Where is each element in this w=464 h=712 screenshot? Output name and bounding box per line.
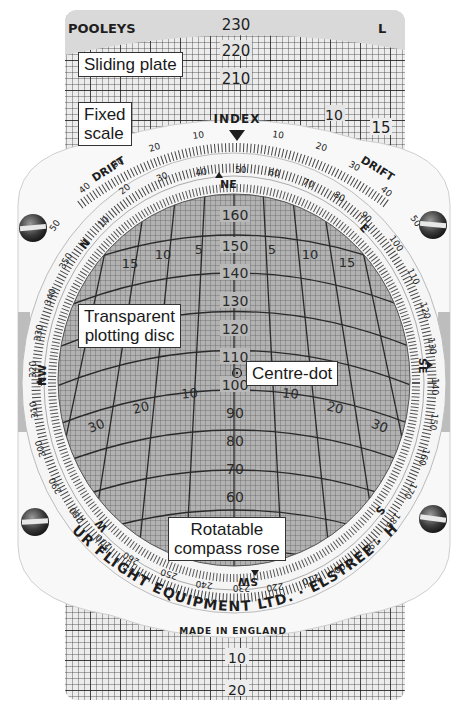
screw-icon [419,505,447,533]
svg-text:10: 10 [325,107,343,123]
callout-text: plotting disc [84,326,175,345]
svg-text:150: 150 [222,238,249,254]
svg-text:100: 100 [222,377,249,393]
svg-text:210: 210 [222,70,251,88]
callout-text: Sliding plate [84,55,177,74]
svg-text:140: 140 [430,378,440,395]
svg-text:10: 10 [155,247,172,262]
svg-text:120: 120 [222,321,249,337]
callout-text: compass rose [174,539,280,558]
svg-text:130: 130 [222,293,249,309]
svg-text:60: 60 [268,167,281,179]
svg-text:10: 10 [281,385,299,402]
svg-text:40: 40 [195,166,208,178]
svg-text:10: 10 [192,129,205,141]
svg-text:10: 10 [272,129,285,141]
screw-icon [419,211,447,239]
svg-text:NE: NE [220,178,237,191]
callout-compass-rose: Rotatable compass rose [168,517,286,561]
svg-text:50: 50 [235,165,247,175]
svg-text:10: 10 [302,247,319,262]
callout-centre-dot: Centre-dot [246,361,338,386]
callout-text: Rotatable [174,520,280,539]
svg-text:15: 15 [339,255,356,270]
callout-text: Transparent [84,307,175,326]
callout-text: scale [84,124,126,143]
callout-sliding-plate: Sliding plate [78,52,183,77]
svg-text:140: 140 [222,265,249,281]
svg-text:70: 70 [226,461,244,477]
plate-side-marker: L [378,21,386,36]
svg-text:5: 5 [268,242,276,257]
svg-text:15: 15 [371,119,390,137]
svg-text:10: 10 [181,385,199,402]
callout-text: Centre-dot [252,364,332,383]
plate-scale-230: 230 [222,16,251,34]
svg-text:15: 15 [122,256,139,271]
svg-text:10: 10 [228,650,246,666]
svg-text:60: 60 [226,489,244,505]
callout-text: Fixed [84,105,126,124]
svg-text:160: 160 [222,207,249,223]
index-label: INDEX [214,112,261,126]
screw-icon [21,508,49,536]
svg-text:20: 20 [228,682,246,698]
origin-text: MADE IN ENGLAND [179,626,286,636]
callout-fixed-scale: Fixed scale [78,102,132,146]
screw-icon [19,214,47,242]
svg-text:80: 80 [226,433,244,449]
brand-label: POOLEYS [68,21,136,36]
flight-computer: POOLEYS L 230 220 210 10 15 10 20 INDEX [0,0,464,712]
svg-text:110: 110 [222,349,249,365]
svg-text:90: 90 [226,405,244,421]
callout-transparent-disc: Transparent plotting disc [78,304,181,348]
svg-text:SW: SW [238,575,258,588]
svg-text:220: 220 [222,42,251,60]
svg-text:5: 5 [195,242,203,257]
